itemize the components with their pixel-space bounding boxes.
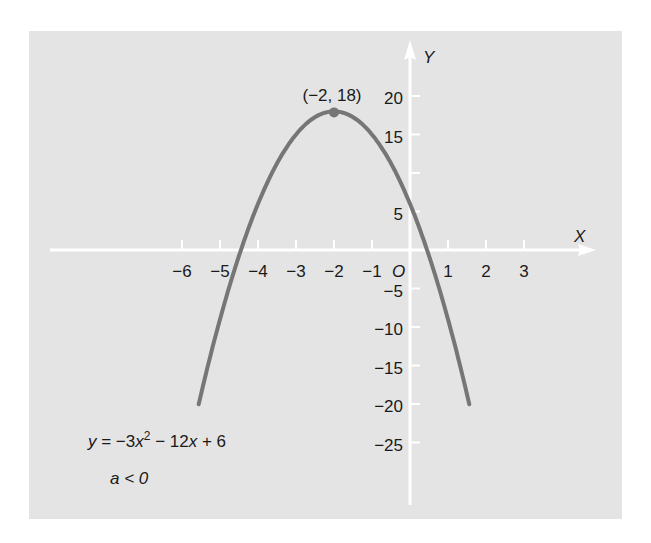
y-tick-label: −20 [374, 397, 403, 416]
x-tick-label: −5 [210, 262, 229, 281]
x-tick-label: 2 [481, 262, 490, 281]
x-tick-label: 1 [443, 262, 452, 281]
x-tick-label: −1 [362, 262, 381, 281]
y-tick-label: 5 [394, 205, 403, 224]
parabola-curve [199, 111, 470, 404]
origin-label: O [392, 262, 405, 281]
x-tick-label: −3 [286, 262, 305, 281]
y-tick-label: 15 [384, 128, 403, 147]
y-tick-label: 20 [384, 89, 403, 108]
y-tick-label: −15 [374, 359, 403, 378]
equation-label: y = −3x2 − 12x + 6 [87, 429, 226, 451]
vertex-point [329, 107, 339, 117]
vertex-label: (−2, 18) [302, 86, 361, 105]
y-axis-arrow-icon [404, 40, 416, 60]
y-tick-label: −5 [384, 282, 403, 301]
y-axis-label: Y [423, 48, 436, 67]
x-axis-label: X [573, 227, 586, 246]
y-tick-label: −10 [374, 320, 403, 339]
x-tick-label: −4 [248, 262, 267, 281]
x-tick-label: −2 [324, 262, 343, 281]
y-tick-label: −25 [374, 436, 403, 455]
x-tick-label: −6 [172, 262, 191, 281]
parabola-chart: (−2, 18) X Y O y = −3x2 − 12x + 6 a < 0 … [0, 0, 651, 543]
condition-label: a < 0 [110, 469, 149, 488]
tick-labels: −6−5−4−3−2−112320155−5−10−15−20−25 [172, 89, 528, 455]
x-tick-label: 3 [519, 262, 528, 281]
